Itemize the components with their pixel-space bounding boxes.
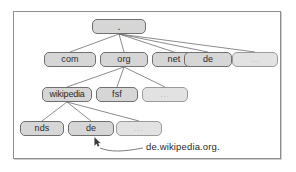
node-wikipedia[interactable]: wikipedia	[42, 87, 92, 102]
annotation-label: de.wikipedia.org.	[146, 141, 220, 152]
node-nds[interactable]: nds	[20, 121, 64, 136]
node-fsf-label: fsf	[112, 89, 122, 99]
node-root-label: .	[117, 20, 120, 32]
node-de-tld-label: de	[203, 54, 213, 64]
node-de-sub-label: de	[86, 123, 96, 133]
node-nds-label: nds	[35, 123, 50, 133]
node-fsf[interactable]: fsf	[96, 87, 138, 102]
mouse-pointer-icon	[94, 137, 101, 147]
node-tld-ellipsis-label: ...	[250, 55, 260, 64]
node-sub-ellipsis[interactable]: ...	[116, 121, 162, 136]
node-wikipedia-label: wikipedia	[49, 89, 84, 99]
node-de-tld[interactable]: de	[184, 52, 232, 67]
node-sld-ellipsis[interactable]: ...	[142, 87, 188, 102]
node-com[interactable]: com	[44, 52, 96, 67]
node-sub-ellipsis-label: ...	[134, 124, 144, 133]
node-de-sub[interactable]: de	[68, 121, 114, 136]
node-com-label: com	[61, 54, 78, 64]
figure-frame	[13, 11, 281, 159]
node-root[interactable]: .	[92, 19, 146, 34]
diagram-canvas: . com org net de ... wikipedia fsf ... n…	[0, 0, 296, 172]
node-org-label: org	[117, 54, 130, 64]
node-tld-ellipsis[interactable]: ...	[232, 52, 278, 67]
node-org[interactable]: org	[100, 52, 148, 67]
node-net-label: net	[168, 54, 181, 64]
node-sld-ellipsis-label: ...	[160, 90, 170, 99]
